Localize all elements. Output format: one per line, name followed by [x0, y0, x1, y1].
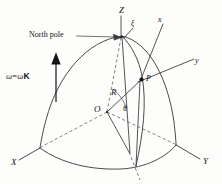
xi-axis-ray-upper [124, 28, 133, 38]
equator-front-arc [40, 145, 176, 169]
local-x-axis [141, 24, 163, 79]
label-axis-x-local: x [158, 16, 162, 24]
projection-P-to-equator [107, 112, 129, 152]
omega-unit-vector-K: K [23, 71, 29, 81]
label-point-P: P [146, 75, 151, 83]
point-P-marker [139, 77, 143, 81]
axis-X-ray [19, 148, 40, 160]
north-pole-leader-line [76, 34, 121, 40]
label-angle-theta: θ [123, 105, 127, 113]
label-axis-X: X [11, 158, 17, 167]
label-axis-Z: Z [119, 6, 124, 15]
omega-vector-arrow [52, 54, 60, 102]
label-origin-O: O [94, 105, 101, 114]
label-radius-R: R [111, 88, 117, 97]
figure-canvas: Z ξ x y North pole P R O θ X Y ω=ωK [0, 0, 222, 184]
label-axis-y-local: y [195, 57, 199, 65]
meridian-left-limb [40, 36, 122, 148]
pole-interior-guide [122, 37, 130, 153]
axis-Y-ray [176, 145, 200, 159]
origin-to-X-corner [41, 112, 107, 147]
meridian-through-p [122, 36, 144, 166]
label-omega-expression: ω=ωK [6, 72, 30, 81]
chord-P-vertical [136, 81, 140, 166]
label-axis-xi: ξ [131, 20, 134, 28]
label-axis-Y: Y [203, 157, 208, 166]
label-north-pole: North pole [29, 31, 63, 39]
point-north-pole-marker [120, 36, 122, 38]
point-O-marker [106, 111, 108, 113]
